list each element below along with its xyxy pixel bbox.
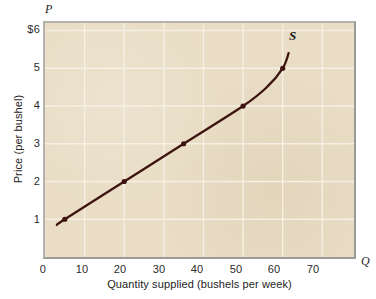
x-tick-50: 50 bbox=[216, 264, 256, 275]
supply-curve-figure: $6 5 4 3 2 1 P Q 0 10 20 30 40 50 60 70 … bbox=[0, 0, 376, 299]
x-tick-70: 70 bbox=[293, 264, 333, 275]
price-axis-letter: P bbox=[45, 2, 52, 17]
y-axis-title: Price (per bushel) bbox=[12, 59, 24, 219]
x-tick-10: 10 bbox=[62, 264, 102, 275]
x-axis-title: Quantity supplied (bushels per week) bbox=[43, 278, 356, 290]
x-tick-40: 40 bbox=[177, 264, 217, 275]
y-tick-6: $6 bbox=[4, 24, 40, 35]
x-tick-60: 60 bbox=[254, 264, 294, 275]
plot-area bbox=[43, 21, 356, 259]
x-tick-30: 30 bbox=[139, 264, 179, 275]
plot-canvas bbox=[45, 23, 354, 257]
quantity-axis-letter: Q bbox=[361, 254, 370, 269]
supply-curve-label: S bbox=[289, 28, 296, 44]
x-tick-0: 0 bbox=[23, 264, 63, 275]
x-tick-20: 20 bbox=[100, 264, 140, 275]
